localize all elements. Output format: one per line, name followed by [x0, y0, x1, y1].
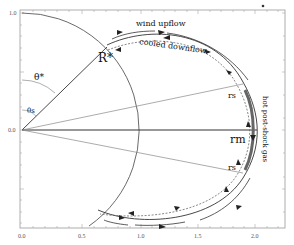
r-m-label: rm [230, 133, 246, 146]
theta-s-label: θs [27, 107, 35, 115]
r-star-line [22, 47, 107, 130]
r-star-label: R* [98, 51, 113, 65]
x-tick-1.5: 1.5 [194, 233, 202, 239]
arrow-lower-up [236, 159, 241, 165]
x-tick-1: 1.0 [137, 233, 145, 239]
arrow-lower-7 [236, 205, 242, 210]
theta-star-label: θ* [34, 72, 44, 82]
arrow-down-3 [226, 70, 232, 75]
x-tick-0.5: 0.5 [78, 233, 86, 239]
r-s-upper-label: rs [228, 91, 236, 100]
cooled-downflow-label: cooled downflow [139, 37, 208, 55]
arrow-lower-6 [128, 211, 134, 216]
x-tick-2: 2.0 [251, 233, 259, 239]
wind-upflow-outer-lower [200, 178, 250, 220]
y-tick-0: 0.0 [8, 127, 16, 133]
hot-gas-label: hot post-shock gas [261, 96, 269, 163]
diagram-canvas: 1.0 0.0 0.0 0.5 1.0 1.5 2.0 R* [0, 0, 294, 245]
arrow-down-2 [163, 35, 170, 40]
marker-dot [262, 5, 265, 8]
arrow-lower-3 [174, 206, 180, 211]
arrow-rm-down [250, 135, 256, 141]
r-s-lower-line [22, 130, 243, 173]
wind-upflow-outer-lower3 [104, 220, 128, 225]
arrow-rm-up [246, 121, 251, 127]
r-s-lower-label: rs [228, 163, 236, 172]
y-tick-1: 1.0 [9, 10, 17, 16]
star-surface-arc [22, 13, 139, 226]
arrow-up-wind [117, 30, 123, 35]
wind-upflow-outer-upper2 [167, 33, 248, 80]
arrow-down-1 [115, 47, 121, 52]
x-tick-0: 0.0 [18, 233, 26, 239]
wind-upflow-label: wind upflow [136, 19, 186, 28]
